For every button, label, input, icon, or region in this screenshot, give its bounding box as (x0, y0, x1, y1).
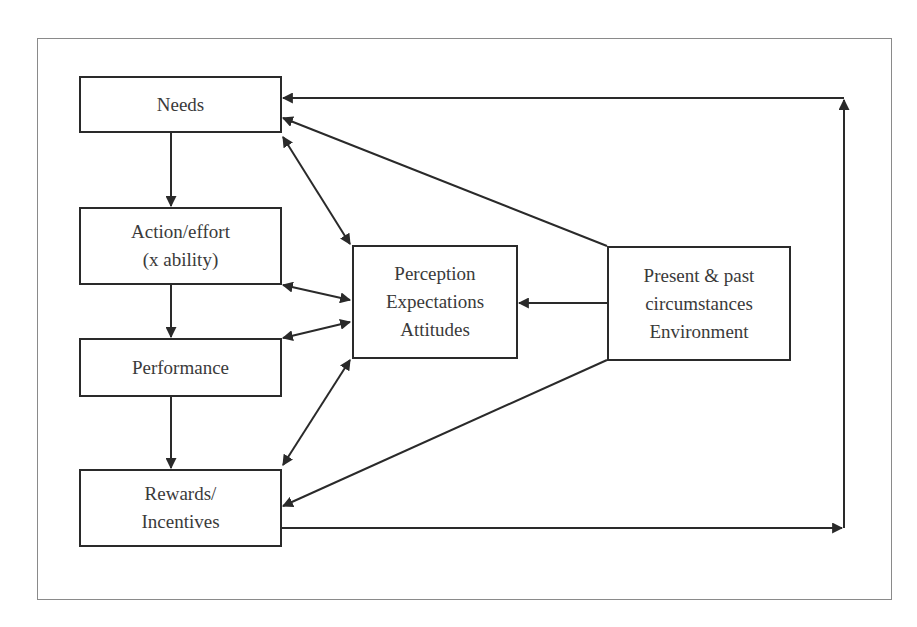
node-performance-label: Performance (132, 354, 229, 382)
node-rewards-incentives: Rewards/ Incentives (79, 469, 282, 547)
arrow-performance-perception (283, 322, 350, 338)
node-action-effort: Action/effort (x ability) (79, 207, 282, 285)
node-rewards-label-2: Incentives (141, 508, 219, 536)
node-circumstances-label-1: Present & past (644, 262, 755, 290)
arrow-rewards-perception (283, 360, 350, 465)
arrow-circumstances-to-needs (283, 118, 607, 246)
node-action-label-1: Action/effort (131, 218, 230, 246)
node-rewards-label-1: Rewards/ (145, 480, 217, 508)
node-needs: Needs (79, 76, 282, 133)
node-performance: Performance (79, 338, 282, 397)
arrow-circumstances-to-rewards (283, 360, 607, 506)
arrow-action-perception (283, 285, 350, 300)
arrow-needs-perception (283, 137, 350, 244)
node-circumstances-label-3: Environment (649, 318, 748, 346)
node-needs-label: Needs (157, 91, 204, 119)
node-circumstances: Present & past circumstances Environment (607, 246, 791, 361)
node-action-label-2: (x ability) (143, 246, 218, 274)
node-circumstances-label-2: circumstances (645, 290, 753, 318)
node-perception: Perception Expectations Attitudes (352, 245, 518, 359)
node-perception-label-3: Attitudes (400, 316, 470, 344)
node-perception-label-2: Expectations (386, 288, 484, 316)
node-perception-label-1: Perception (394, 260, 475, 288)
